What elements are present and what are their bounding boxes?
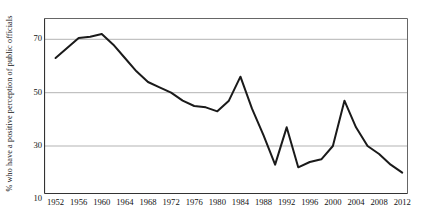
x-axis-tick-labels: 1952195619601964196819721976198019841988… <box>0 196 427 218</box>
x-axis-tick-label: 1964 <box>112 198 138 207</box>
plot-frame <box>45 19 408 194</box>
y-axis-tick-label: 30 <box>20 141 42 150</box>
x-axis-tick-label: 2012 <box>389 198 415 207</box>
x-axis-tick-label: 1968 <box>135 198 161 207</box>
x-axis-tick-label: 1980 <box>204 198 230 207</box>
x-axis-tick-label: 1984 <box>227 198 253 207</box>
x-axis-tick-label: 2000 <box>320 198 346 207</box>
x-axis-tick-label: 1988 <box>251 198 277 207</box>
x-axis-tick-label: 2004 <box>343 198 369 207</box>
x-axis-tick-label: 1976 <box>181 198 207 207</box>
x-axis-tick-label: 1956 <box>66 198 92 207</box>
plot-svg <box>44 18 408 194</box>
x-axis-tick-label: 1952 <box>43 198 69 207</box>
line-chart: % who have a positive perception of publ… <box>0 0 427 224</box>
y-axis-tick-label: 70 <box>20 34 42 43</box>
y-axis-label: % who have a positive perception of publ… <box>5 15 14 191</box>
plot-area <box>44 18 408 194</box>
x-axis-tick-label: 2008 <box>366 198 392 207</box>
x-axis-tick-label: 1992 <box>274 198 300 207</box>
x-axis-tick-label: 1996 <box>297 198 323 207</box>
gridlines <box>44 39 408 146</box>
y-axis-tick-labels: 10305070 <box>16 0 42 224</box>
x-axis-tick-label: 1972 <box>158 198 184 207</box>
data-series-line <box>56 34 403 173</box>
y-axis-tick-label: 50 <box>20 88 42 97</box>
x-axis-tick-label: 1960 <box>89 198 115 207</box>
